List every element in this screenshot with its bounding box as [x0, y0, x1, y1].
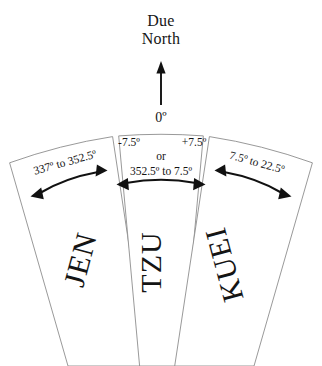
diagram-canvas: 0º 337º to 352.5º -7.5º +7.5º or 352.5º … — [0, 0, 322, 366]
due-north-line-1: Due — [0, 12, 322, 30]
due-north-label: Due North — [0, 12, 322, 48]
compass-sector-diagram: Due North 0º 337º to 352.5º -7.5º +7.5º — [0, 0, 322, 366]
sector-tzu-min-label: -7.5º — [118, 136, 140, 148]
sector-tzu-name: TZU — [134, 231, 167, 292]
zero-degree-label: 0º — [155, 110, 167, 125]
north-arrow — [156, 61, 165, 105]
due-north-line-2: North — [0, 30, 322, 48]
sector-tzu-max-label: +7.5º — [182, 136, 207, 148]
north-arrow-head — [156, 61, 165, 74]
sector-tzu-conjunction: or — [156, 150, 166, 162]
sector-tzu-range-label: 352.5º to 7.5º — [130, 165, 193, 177]
